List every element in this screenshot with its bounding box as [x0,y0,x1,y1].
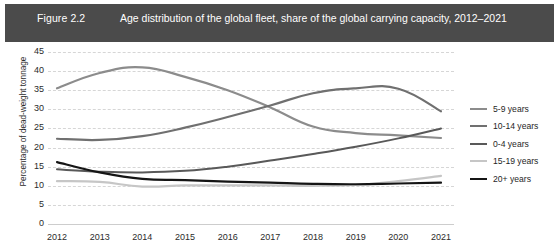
legend-swatch-icon [470,125,487,127]
legend-item[interactable]: 0-4 years [470,135,538,153]
legend-swatch-icon [470,143,487,145]
x-tick-label: 2019 [333,232,379,242]
legend-swatch-icon [470,178,487,180]
figure-title: Age distribution of the global fleet, sh… [120,12,540,25]
chart-legend: 5-9 years10-14 years0-4 years15-19 years… [470,100,538,188]
x-tick-label: 2015 [162,232,208,242]
legend-item-label: 5-9 years [493,104,529,114]
figure-container: Figure 2.2 Age distribution of the globa… [0,0,559,249]
legend-item-label: 0-4 years [493,139,529,149]
x-tick-label: 2016 [205,232,251,242]
figure-number: Figure 2.2 [37,12,85,24]
legend-item[interactable]: 10-14 years [470,118,538,136]
series-line [57,86,441,140]
series-line [57,67,441,138]
x-tick-label: 2013 [77,232,123,242]
legend-item[interactable]: 15-19 years [470,153,538,171]
x-tick-label: 2020 [375,232,421,242]
legend-item-label: 10-14 years [493,121,538,131]
legend-item[interactable]: 5-9 years [470,100,538,118]
legend-swatch-icon [470,108,487,110]
legend-item-label: 15-19 years [493,156,538,166]
x-tick-label: 2012 [34,232,80,242]
x-tick-label: 2017 [247,232,293,242]
x-tick-label: 2018 [290,232,336,242]
x-tick-label: 2014 [119,232,165,242]
legend-item[interactable]: 20+ years [470,170,538,188]
legend-swatch-icon [470,160,487,162]
x-tick-label: 2021 [418,232,464,242]
figure-header-band: Figure 2.2 Age distribution of the globa… [5,4,554,42]
legend-item-label: 20+ years [493,174,531,184]
series-line [57,162,441,184]
